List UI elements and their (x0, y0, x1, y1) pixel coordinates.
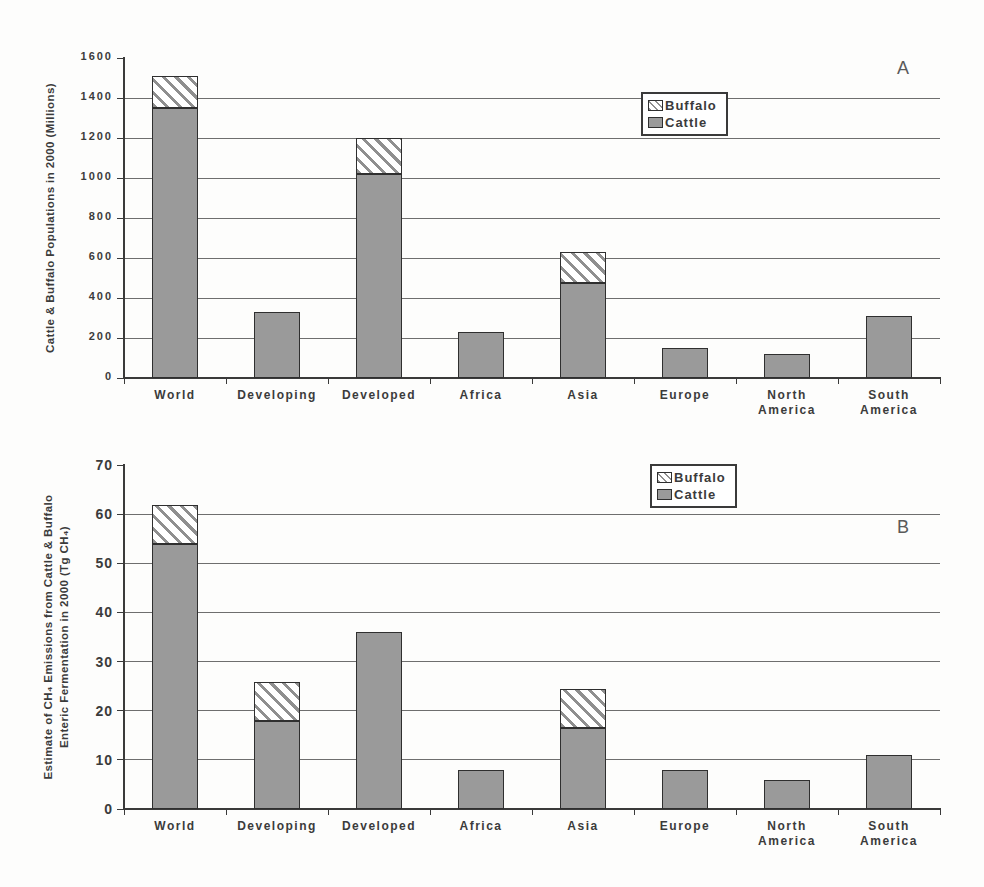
bar-segment-cattle (764, 354, 810, 378)
bar-segment-cattle (662, 770, 708, 809)
bar-segment-cattle (254, 312, 300, 378)
y-tick (117, 809, 123, 810)
bar-segment-buffalo (152, 505, 198, 544)
y-tick (117, 759, 123, 760)
x-tick (736, 810, 737, 815)
legend-swatch-cattle-icon (657, 489, 672, 500)
bar-developing (254, 312, 300, 378)
x-tick (430, 810, 431, 815)
gridline (124, 710, 940, 711)
panel-label-a: A (897, 58, 910, 79)
bar-world (152, 76, 198, 378)
bar-developed (356, 632, 402, 809)
bar-north-america (764, 780, 810, 809)
bar-segment-cattle (560, 283, 606, 378)
x-label-south-america: South America (834, 819, 944, 849)
y-tick (117, 514, 123, 515)
bar-africa (458, 770, 504, 809)
bar-europe (662, 348, 708, 378)
bar-segment-buffalo (560, 252, 606, 283)
legend-a: BuffaloCattle (641, 92, 728, 136)
legend-swatch-buffalo-icon (657, 472, 672, 483)
x-tick (328, 810, 329, 815)
legend-item-buffalo: Buffalo (648, 98, 717, 113)
x-tick (940, 810, 941, 815)
bar-africa (458, 332, 504, 378)
bar-europe (662, 770, 708, 809)
panel-label-b: B (897, 517, 910, 538)
x-label-developing: Developing (222, 819, 332, 834)
x-label-world: World (120, 819, 230, 834)
x-tick (838, 810, 839, 815)
bar-developing (254, 682, 300, 809)
legend-label-buffalo: Buffalo (674, 470, 726, 485)
x-tick (634, 810, 635, 815)
bar-segment-cattle (356, 632, 402, 809)
bar-segment-cattle (458, 332, 504, 378)
x-tick (226, 810, 227, 815)
legend-item-cattle: Cattle (657, 487, 726, 502)
y-axis (123, 464, 125, 809)
x-label-developed: Developed (324, 819, 434, 834)
y-tick (117, 563, 123, 564)
figure: 02004006008001000120014001600WorldDevelo… (0, 0, 984, 887)
bar-segment-cattle (866, 316, 912, 378)
legend-label-cattle: Cattle (674, 487, 716, 502)
y-tick (117, 612, 123, 613)
legend-swatch-buffalo-icon (648, 100, 663, 111)
bar-south-america (866, 316, 912, 378)
y-axis-title-b: Estimate of CH₄ Emissions from Cattle & … (40, 495, 72, 780)
bar-south-america (866, 755, 912, 809)
x-label-asia: Asia (528, 819, 638, 834)
bar-segment-buffalo (356, 138, 402, 174)
bar-segment-buffalo (152, 76, 198, 108)
legend-label-buffalo: Buffalo (665, 98, 717, 113)
x-label-europe: Europe (630, 819, 740, 834)
legend-item-buffalo: Buffalo (657, 470, 726, 485)
y-tick (117, 465, 123, 466)
bar-asia (560, 689, 606, 809)
bar-segment-buffalo (560, 689, 606, 728)
bar-segment-cattle (560, 728, 606, 809)
bar-segment-cattle (458, 770, 504, 809)
legend-item-cattle: Cattle (648, 115, 717, 130)
bar-segment-cattle (356, 174, 402, 378)
bar-segment-cattle (254, 721, 300, 809)
gridline (124, 759, 940, 760)
bar-segment-cattle (152, 108, 198, 378)
bar-segment-cattle (662, 348, 708, 378)
gridline (124, 563, 940, 564)
bar-segment-cattle (866, 755, 912, 809)
gridline (124, 612, 940, 613)
gridline (124, 661, 940, 662)
legend-b: BuffaloCattle (650, 464, 737, 508)
x-label-africa: Africa (426, 819, 536, 834)
legend-swatch-cattle-icon (648, 117, 663, 128)
gridline (124, 514, 940, 515)
x-tick (532, 810, 533, 815)
x-tick (124, 810, 125, 815)
chart-panel-b: 010203040506070WorldDevelopingDevelopedA… (0, 0, 984, 887)
bar-developed (356, 138, 402, 378)
y-tick-label: 0 (45, 801, 113, 817)
y-tick (117, 710, 123, 711)
y-tick (117, 661, 123, 662)
y-tick-label: 70 (45, 457, 113, 473)
bar-segment-cattle (152, 544, 198, 809)
bar-north-america (764, 354, 810, 378)
bar-segment-cattle (764, 780, 810, 809)
x-label-north-america: North America (732, 819, 842, 849)
bar-asia (560, 252, 606, 378)
legend-label-cattle: Cattle (665, 115, 707, 130)
bar-world (152, 505, 198, 809)
bar-segment-buffalo (254, 682, 300, 721)
